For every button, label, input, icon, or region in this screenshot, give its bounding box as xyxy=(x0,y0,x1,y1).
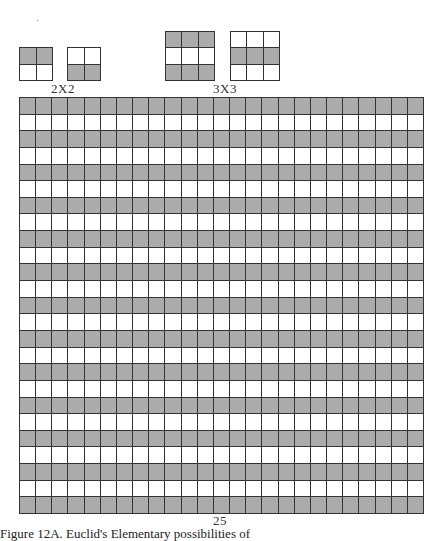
cell xyxy=(279,414,294,430)
cell xyxy=(52,231,67,247)
cell xyxy=(311,381,326,397)
cell xyxy=(37,65,53,81)
cell xyxy=(182,381,197,397)
cell xyxy=(149,181,164,197)
cell xyxy=(359,398,374,414)
cell xyxy=(85,214,100,230)
cell xyxy=(198,264,213,280)
cell xyxy=(198,198,213,214)
cell xyxy=(20,281,35,297)
cell xyxy=(392,381,407,397)
cell xyxy=(295,264,310,280)
cell xyxy=(376,148,391,164)
cell xyxy=(182,181,197,197)
cell xyxy=(85,198,100,214)
pattern-3x3-b xyxy=(230,31,280,81)
cell xyxy=(311,248,326,264)
cell xyxy=(214,481,229,497)
cell xyxy=(214,231,229,247)
cell xyxy=(343,464,358,480)
cell xyxy=(52,264,67,280)
cell xyxy=(327,364,342,380)
cell xyxy=(343,348,358,364)
cell xyxy=(230,248,245,264)
cell xyxy=(408,214,423,230)
cell xyxy=(149,497,164,513)
cell xyxy=(68,264,83,280)
cell xyxy=(36,381,51,397)
cell xyxy=(52,115,67,131)
cell xyxy=(343,381,358,397)
cell xyxy=(198,181,213,197)
cell xyxy=(230,131,245,147)
label-3x3: 3X3 xyxy=(213,81,237,97)
cell xyxy=(311,414,326,430)
cell xyxy=(165,98,180,114)
cell xyxy=(262,381,277,397)
cell xyxy=(165,165,180,181)
cell xyxy=(376,381,391,397)
cell xyxy=(101,165,116,181)
cell xyxy=(68,198,83,214)
cell xyxy=(133,314,148,330)
cell xyxy=(264,65,279,80)
cell xyxy=(117,98,132,114)
cell xyxy=(279,165,294,181)
cell xyxy=(198,497,213,513)
cell xyxy=(101,148,116,164)
cell xyxy=(198,414,213,430)
cell xyxy=(117,165,132,181)
cell xyxy=(133,231,148,247)
cell xyxy=(295,331,310,347)
cell xyxy=(101,414,116,430)
cell xyxy=(262,281,277,297)
cell xyxy=(327,481,342,497)
cell xyxy=(311,298,326,314)
cell xyxy=(392,198,407,214)
cell xyxy=(165,447,180,463)
cell xyxy=(52,398,67,414)
cell xyxy=(230,231,245,247)
cell xyxy=(279,447,294,463)
cell xyxy=(133,381,148,397)
cell xyxy=(165,281,180,297)
cell xyxy=(165,314,180,330)
cell xyxy=(165,181,180,197)
cell xyxy=(311,331,326,347)
cell xyxy=(343,298,358,314)
cell xyxy=(230,414,245,430)
cell xyxy=(165,231,180,247)
cell xyxy=(85,447,100,463)
cell xyxy=(149,248,164,264)
cell xyxy=(247,48,262,63)
cell xyxy=(101,464,116,480)
cell xyxy=(68,381,83,397)
cell xyxy=(68,481,83,497)
cell xyxy=(198,165,213,181)
cell xyxy=(149,115,164,131)
cell xyxy=(68,165,83,181)
cell xyxy=(392,231,407,247)
cell xyxy=(408,447,423,463)
cell xyxy=(68,414,83,430)
cell xyxy=(149,464,164,480)
cell xyxy=(68,314,83,330)
cell xyxy=(262,447,277,463)
cell xyxy=(327,398,342,414)
cell xyxy=(262,115,277,131)
cell xyxy=(262,98,277,114)
cell xyxy=(149,264,164,280)
cell xyxy=(117,298,132,314)
cell xyxy=(117,431,132,447)
cell xyxy=(68,214,83,230)
cell xyxy=(231,32,246,47)
cell xyxy=(85,481,100,497)
cell xyxy=(214,298,229,314)
cell xyxy=(327,447,342,463)
cell xyxy=(68,298,83,314)
cell xyxy=(68,348,83,364)
cell xyxy=(311,165,326,181)
cell xyxy=(230,148,245,164)
cell xyxy=(246,497,261,513)
cell xyxy=(117,398,132,414)
